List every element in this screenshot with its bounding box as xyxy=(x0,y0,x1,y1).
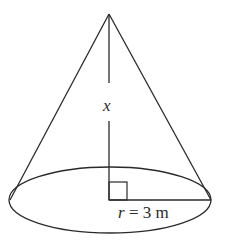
left-slant-edge xyxy=(10,14,109,200)
radius-label: r = 3 m xyxy=(118,203,169,222)
right-slant-edge xyxy=(109,14,211,200)
radius-value: = 3 m xyxy=(125,203,169,222)
cone-diagram: x r = 3 m xyxy=(0,0,225,250)
height-label: x xyxy=(102,96,111,115)
right-angle-marker xyxy=(109,182,127,200)
cone-figure: x r = 3 m xyxy=(0,0,225,250)
